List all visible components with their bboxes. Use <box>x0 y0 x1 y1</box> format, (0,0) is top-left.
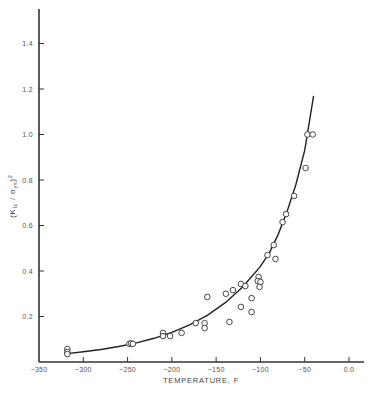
x-ticks: −350−300−250−200−150−100−500.0 <box>31 357 355 373</box>
x-tick-label: −150 <box>208 366 225 373</box>
data-point-marker <box>305 132 311 138</box>
data-point-marker <box>167 333 173 339</box>
y-axis-title: (KIc / σys)2 <box>7 174 18 217</box>
x-tick-label: −200 <box>163 366 180 373</box>
y-tick-label: 1.0 <box>22 131 33 138</box>
x-axis-title: TEMPERATURE, F <box>163 376 239 385</box>
y-tick-label: 1.2 <box>22 86 33 93</box>
data-point-marker <box>179 330 185 336</box>
data-point-marker <box>249 295 255 301</box>
y-tick-label: 0.4 <box>22 268 33 275</box>
x-tick-label: −50 <box>298 366 311 373</box>
y-tick-label: 0.8 <box>22 177 33 184</box>
data-point-marker <box>238 304 244 310</box>
data-point-marker <box>257 284 263 290</box>
data-point-marker <box>310 132 316 138</box>
y-ticks: 0.20.40.60.81.01.21.4 <box>22 40 44 320</box>
fit-line <box>67 96 313 354</box>
data-points <box>65 132 316 357</box>
data-point-marker <box>230 287 236 293</box>
data-point-marker <box>160 333 166 339</box>
data-point-marker <box>223 291 229 297</box>
y-tick-label: 0.2 <box>22 313 33 320</box>
svg-text:(KIc / σys)2: (KIc / σys)2 <box>7 174 18 217</box>
y-tick-label: 1.4 <box>22 40 33 47</box>
data-point-marker <box>303 165 309 171</box>
chart: −350−300−250−200−150−100−500.0 0.20.40.6… <box>0 0 377 396</box>
y-tick-label: 0.6 <box>22 222 33 229</box>
x-tick-label: −300 <box>75 366 92 373</box>
x-tick-label: −100 <box>252 366 269 373</box>
data-point-marker <box>273 256 279 262</box>
x-tick-label: 0.0 <box>344 366 355 373</box>
data-point-marker <box>265 252 271 258</box>
data-point-marker <box>243 283 249 289</box>
fit-curve <box>67 96 313 354</box>
x-tick-label: −350 <box>31 366 48 373</box>
data-point-marker <box>130 341 136 347</box>
data-point-marker <box>291 193 297 199</box>
data-point-marker <box>283 211 289 217</box>
data-point-marker <box>227 319 233 325</box>
data-point-marker <box>204 294 210 300</box>
data-point-marker <box>271 242 277 248</box>
data-point-marker <box>280 219 286 225</box>
x-tick-label: −250 <box>119 366 136 373</box>
data-point-marker <box>193 320 199 326</box>
axes <box>39 9 364 362</box>
data-point-marker <box>65 351 71 357</box>
data-point-marker <box>202 325 208 331</box>
data-point-marker <box>249 309 255 315</box>
